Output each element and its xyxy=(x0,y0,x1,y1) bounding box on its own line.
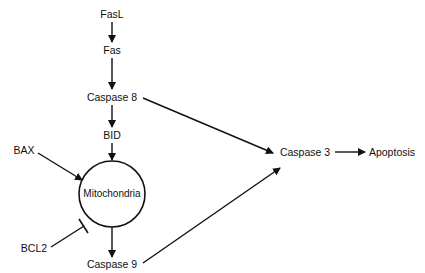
node-bid: BID xyxy=(103,130,121,141)
edge-bcl2-mitochondria-inhibit xyxy=(51,226,84,247)
pathway-edges xyxy=(0,0,425,273)
node-apoptosis: Apoptosis xyxy=(369,147,415,158)
node-fasl: FasL xyxy=(100,9,123,20)
edge-bax-mitochondria xyxy=(38,153,82,180)
apoptosis-pathway-diagram: FasL Fas Caspase 8 BID BAX Mitochondria … xyxy=(0,0,425,273)
node-mitochondria: Mitochondria xyxy=(83,189,140,199)
node-bax: BAX xyxy=(13,145,34,156)
node-fas: Fas xyxy=(103,45,121,56)
node-caspase3: Caspase 3 xyxy=(280,147,330,158)
node-bcl2: BCL2 xyxy=(21,243,47,254)
node-caspase9: Caspase 9 xyxy=(87,259,137,270)
edge-caspase9-caspase3 xyxy=(143,168,280,263)
node-caspase8: Caspase 8 xyxy=(87,92,137,103)
inhibition-bar xyxy=(79,219,88,233)
edge-caspase8-caspase3 xyxy=(143,98,273,153)
